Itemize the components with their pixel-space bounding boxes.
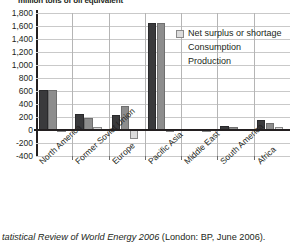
legend-swatch-net [176,30,184,38]
legend-item: Consumption [176,41,296,54]
legend-item: Net surplus or shortage [176,27,296,40]
source-caption: tatistical Review of World Energy 2006 (… [2,232,297,243]
y-tick-label: 600 [19,87,33,96]
legend-label: Production [188,57,231,66]
bar-production [39,90,48,130]
bar-production [148,23,157,130]
caption-title-italic: tatistical Review of World Energy 2006 [2,232,159,242]
legend-label: Net surplus or shortage [188,29,282,38]
legend-item: Production [176,55,296,68]
caption-publisher: (London: BP, June 2006). [159,232,265,242]
legend-swatch-consumption [176,44,184,52]
bar-consumption [157,23,166,130]
legend-label: Consumption [188,43,241,52]
y-tick-label: 1,400 [12,35,33,44]
x-axis-category-labels: North AmericaFormer Soviet UnionEuropePa… [36,159,290,239]
gridline [36,13,290,14]
y-axis-tick-labels: 1,8001,6001,4001,2001,0008006004002000-2… [0,13,34,156]
figure-energy-balance: million tons of oil equivalent 1,8001,60… [0,0,297,249]
y-tick-label: 800 [19,74,33,83]
legend-swatch-production [176,58,184,66]
y-tick-label: -400 [16,152,33,161]
unit-title: million tons of oil equivalent [18,0,123,5]
bar-net-surplus-or-shortage [130,130,139,139]
y-tick-label: 0 [28,126,33,135]
y-tick-label: 200 [19,113,33,122]
y-tick-label: -200 [16,139,33,148]
y-tick-label: 400 [19,100,33,109]
y-tick-label: 1,200 [12,48,33,57]
y-tick-label: 1,000 [12,61,33,70]
y-tick-label: 1,800 [12,9,33,18]
chart-legend: Net surplus or shortageConsumptionProduc… [176,27,296,69]
category-separator [145,13,146,156]
y-tick-label: 1,600 [12,22,33,31]
y-axis-line [36,10,38,156]
bar-consumption [48,90,57,130]
